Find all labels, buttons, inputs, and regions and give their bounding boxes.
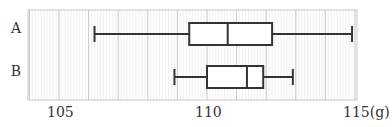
iqr-box [189, 23, 272, 45]
category-labels: AB [10, 20, 22, 79]
category-label-a: A [10, 20, 22, 36]
iqr-box [207, 66, 263, 88]
x-axis-tick-labels: 105110115(g) [47, 104, 390, 120]
tick-label-110: 110 [195, 104, 222, 120]
tick-label-105: 105 [47, 104, 74, 120]
tick-label-115: 115(g) [343, 104, 390, 120]
box-plot-chart: AB 105110115(g) [0, 0, 392, 127]
category-label-b: B [11, 63, 21, 79]
